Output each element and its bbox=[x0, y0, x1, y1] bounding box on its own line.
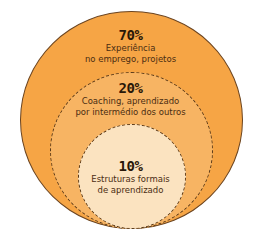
percent-20: 20% bbox=[0, 80, 261, 96]
label-20: 20% Coaching, aprendizado por intermédio… bbox=[0, 80, 261, 118]
label-10: 10% Estruturas formais de aprendizado bbox=[0, 158, 261, 196]
percent-70: 70% bbox=[0, 27, 261, 43]
desc-70-line1: Experiência bbox=[0, 43, 261, 54]
desc-10-line2: de aprendizado bbox=[0, 185, 261, 196]
desc-20-line2: por intermédio dos outros bbox=[0, 107, 261, 118]
desc-20-line1: Coaching, aprendizado bbox=[0, 96, 261, 107]
percent-10: 10% bbox=[0, 158, 261, 174]
desc-10-line1: Estruturas formais bbox=[0, 174, 261, 185]
desc-70-line2: no emprego, projetos bbox=[0, 54, 261, 65]
label-70: 70% Experiência no emprego, projetos bbox=[0, 27, 261, 65]
